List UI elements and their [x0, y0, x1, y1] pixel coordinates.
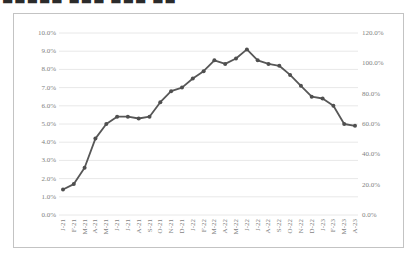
left-axis-tick-label: 3.0% [21, 156, 56, 164]
x-axis-tick-label: M-21 [102, 219, 110, 249]
data-point-marker [115, 115, 119, 119]
data-point-marker [223, 62, 227, 66]
x-axis-tick-label: M-22 [232, 219, 240, 249]
left-axis-tick-label: 6.0% [21, 102, 56, 110]
x-axis-tick-label: O-21 [156, 219, 164, 249]
x-axis-tick-label: A-23 [351, 219, 359, 249]
data-point-marker [158, 100, 162, 104]
x-axis-tick-label: M-23 [340, 219, 348, 249]
cropped-title: ■■■■■ ■■■ ■■■ ■■ [2, 0, 182, 6]
right-axis-tick-label: 120.0% [362, 29, 402, 37]
left-axis-tick-label: 7.0% [21, 84, 56, 92]
line-chart: 10.0%9.0%8.0%7.0%6.0%5.0%4.0%3.0%2.0%1.0… [13, 13, 404, 248]
data-point-marker [299, 84, 303, 88]
plot-area [14, 14, 403, 247]
left-axis-tick-label: 5.0% [21, 120, 56, 128]
data-point-marker [191, 77, 195, 81]
data-point-marker [137, 117, 141, 121]
data-point-marker [93, 137, 97, 141]
right-axis-tick-label: 20.0% [362, 181, 402, 189]
data-point-marker [277, 64, 281, 68]
left-axis-tick-label: 9.0% [21, 47, 56, 55]
data-point-marker [256, 58, 260, 62]
x-axis-tick-label: M-21 [81, 219, 89, 249]
data-point-marker [126, 115, 130, 119]
x-axis-tick-label: J-22 [254, 219, 262, 249]
data-point-marker [202, 69, 206, 73]
left-axis-tick-label: 4.0% [21, 138, 56, 146]
data-point-marker [353, 124, 357, 128]
x-axis-tick-label: N-21 [167, 219, 175, 249]
data-series-line [63, 49, 355, 189]
x-axis-tick-label: F-23 [329, 219, 337, 249]
data-point-marker [180, 86, 184, 90]
left-axis-tick-label: 10.0% [21, 29, 56, 37]
data-point-marker [331, 104, 335, 108]
x-axis-tick-label: A-21 [135, 219, 143, 249]
data-point-marker [61, 188, 65, 192]
x-axis-tick-label: F-22 [200, 219, 208, 249]
right-axis-tick-label: 60.0% [362, 120, 402, 128]
x-axis-tick-label: S-21 [146, 219, 154, 249]
x-axis-tick-label: J-23 [319, 219, 327, 249]
data-point-marker [321, 97, 325, 101]
x-axis-tick-label: A-22 [221, 219, 229, 249]
cropped-title-text: ■■■■■ ■■■ ■■■ ■■ [2, 0, 182, 5]
right-axis-tick-label: 100.0% [362, 59, 402, 67]
data-point-marker [342, 122, 346, 126]
left-axis-tick-label: 0.0% [21, 211, 56, 219]
right-axis-tick-label: 40.0% [362, 150, 402, 158]
x-axis-tick-label: D-21 [178, 219, 186, 249]
screenshot-root: ■■■■■ ■■■ ■■■ ■■ 10.0%9.0%8.0%7.0%6.0%5.… [0, 0, 410, 256]
data-point-marker [288, 73, 292, 77]
x-axis-tick-label: J-21 [59, 219, 67, 249]
data-point-marker [245, 47, 249, 51]
x-axis-tick-label: J-22 [243, 219, 251, 249]
x-axis-tick-label: F-21 [70, 219, 78, 249]
data-point-marker [72, 182, 76, 186]
x-axis-tick-label: J-22 [189, 219, 197, 249]
data-point-marker [169, 89, 173, 93]
x-axis-tick-label: J-21 [113, 219, 121, 249]
data-point-marker [234, 57, 238, 61]
x-axis-tick-label: J-21 [124, 219, 132, 249]
right-axis-tick-label: 80.0% [362, 90, 402, 98]
x-axis-tick-label: S-22 [275, 219, 283, 249]
x-axis-tick-label: A-21 [91, 219, 99, 249]
left-axis-tick-label: 2.0% [21, 175, 56, 183]
data-point-marker [212, 58, 216, 62]
x-axis-tick-label: N-22 [297, 219, 305, 249]
data-point-marker [310, 95, 314, 99]
data-point-marker [267, 62, 271, 66]
x-axis-tick-label: A-22 [264, 219, 272, 249]
left-axis-tick-label: 1.0% [21, 193, 56, 201]
data-point-marker [104, 122, 108, 126]
x-axis-tick-label: O-22 [286, 219, 294, 249]
x-axis-tick-label: M-22 [210, 219, 218, 249]
left-axis-tick-label: 8.0% [21, 65, 56, 73]
data-point-marker [83, 166, 87, 170]
x-axis-tick-label: D-22 [308, 219, 316, 249]
right-axis-tick-label: 0.0% [362, 211, 402, 219]
data-point-marker [148, 115, 152, 119]
